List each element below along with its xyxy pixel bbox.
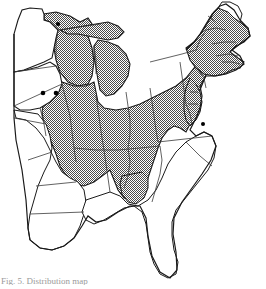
state-shape-michigan-lp [94,40,130,96]
dot-marker-minnesota [56,22,60,26]
distribution-map-figure: Fig. 5. Distribution map [0,0,266,289]
dot-marker-iowa-east [54,91,59,96]
dot-marker-iowa-west [41,91,46,96]
us-distribution-map-svg [0,0,266,289]
shaded-range-area [42,6,250,204]
dot-marker-chesapeake [201,122,205,126]
figure-caption: Fig. 5. Distribution map [1,276,201,285]
